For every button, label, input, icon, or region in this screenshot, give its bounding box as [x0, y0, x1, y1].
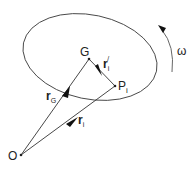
vector-ri-prime-arrowhead	[95, 64, 102, 76]
label-G: G	[80, 45, 89, 59]
omega-rotation-arc	[162, 30, 173, 72]
vector-rG-arrowhead	[62, 86, 70, 98]
label-ri-prime: ri/	[103, 55, 110, 72]
label-O: O	[8, 149, 17, 163]
point-O	[20, 154, 23, 157]
vector-rG-line	[21, 59, 89, 155]
rigid-body-kinematics-diagram: O G Pi rG ri ri/ ω	[0, 0, 193, 172]
vector-ri-arrowhead	[66, 117, 78, 127]
rigid-body-ellipse	[15, 2, 165, 112]
label-Pi-sub: i	[126, 86, 128, 95]
label-Pi: Pi	[118, 79, 128, 95]
point-Pi	[114, 85, 117, 88]
omega-arrowhead-icon	[158, 25, 166, 33]
label-ri-prime-sup: /	[107, 55, 109, 62]
vector-ri-prime-line	[89, 59, 115, 86]
label-omega: ω	[177, 44, 186, 58]
label-rG: rG	[46, 89, 56, 104]
label-ri: ri	[78, 113, 85, 128]
label-rG-sub: G	[51, 97, 56, 104]
label-ri-prime-sub: i	[108, 65, 110, 72]
label-Pi-main: P	[118, 79, 126, 93]
label-ri-sub: i	[83, 121, 85, 128]
